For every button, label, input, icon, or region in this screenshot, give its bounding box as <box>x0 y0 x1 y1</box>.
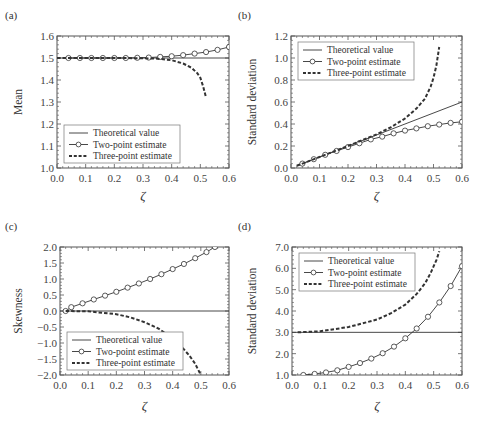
panel-label: (b) <box>238 9 251 22</box>
chart-panel-d: 0.00.10.20.30.40.50.61.02.03.04.05.06.07… <box>238 220 469 413</box>
y-tick-label: −0.5 <box>37 321 57 333</box>
data-point-marker <box>448 120 453 125</box>
y-tick-label: 1.6 <box>40 30 54 42</box>
y-tick-label: 1.5 <box>40 52 54 64</box>
x-tick-label: 0.6 <box>222 379 236 391</box>
legend: Theoretical valueTwo-point estimateThree… <box>67 332 183 370</box>
data-point-marker <box>91 297 96 302</box>
data-point-marker <box>136 281 141 286</box>
y-tick-label: 0.0 <box>43 305 57 317</box>
data-point-marker <box>414 326 419 331</box>
x-tick-label: 0.6 <box>222 172 236 184</box>
x-tick-label: 0.4 <box>166 379 180 391</box>
x-tick-label: 0.5 <box>193 172 207 184</box>
data-point-marker <box>380 351 385 356</box>
data-point-marker <box>448 283 453 288</box>
legend-entry: Theoretical value <box>328 256 394 266</box>
legend-entry: Three-point estimate <box>93 151 172 161</box>
x-axis-label: ζ <box>142 398 148 413</box>
data-point-marker <box>192 51 197 56</box>
series-three-point-estimate <box>57 58 206 98</box>
x-tick-label: 0.5 <box>194 379 208 391</box>
data-point-marker <box>204 250 209 255</box>
chart-panel-a: 0.00.10.20.30.40.50.61.01.11.21.31.41.51… <box>5 9 236 203</box>
data-point-marker <box>414 126 419 131</box>
y-tick-label: 3.0 <box>275 326 289 338</box>
chart-panel-c: 0.00.10.20.30.40.50.6−2.0−1.5−1.0−0.50.0… <box>5 220 236 413</box>
data-point-marker <box>437 300 442 305</box>
data-point-marker <box>114 289 119 294</box>
data-point-marker <box>193 256 198 261</box>
y-tick-label: 1.0 <box>43 273 57 285</box>
data-point-marker <box>80 301 85 306</box>
series-two-point-estimate <box>66 247 215 311</box>
x-tick-label: 0.1 <box>81 379 95 391</box>
y-tick-label: 1.1 <box>40 140 54 152</box>
data-point-marker <box>391 344 396 349</box>
legend-entry: Two-point estimate <box>93 140 166 150</box>
x-tick-label: 0.1 <box>313 379 327 391</box>
y-axis-label: Standard deviation <box>246 58 258 145</box>
data-point-marker <box>69 305 74 310</box>
data-point-marker <box>181 261 186 266</box>
data-point-marker <box>391 131 396 136</box>
y-tick-label: 1.4 <box>40 74 54 86</box>
legend-entry: Two-point estimate <box>96 347 169 357</box>
chart-panel-b: 0.00.10.20.30.40.50.60.00.20.40.60.81.01… <box>238 9 469 203</box>
y-tick-label: 1.3 <box>40 96 54 108</box>
y-tick-label: 4.0 <box>275 305 289 317</box>
y-tick-label: 1.0 <box>274 52 288 64</box>
data-point-marker <box>369 356 374 361</box>
y-tick-label: 1.2 <box>40 118 54 130</box>
y-tick-label: 6.0 <box>275 262 289 274</box>
legend-entry: Theoretical value <box>96 335 162 345</box>
x-tick-label: 0.2 <box>107 172 121 184</box>
legend-entry: Three-point estimate <box>96 358 175 368</box>
data-point-marker <box>125 285 130 290</box>
y-tick-label: 0.2 <box>274 140 288 152</box>
x-tick-label: 0.2 <box>109 379 123 391</box>
x-tick-label: 0.1 <box>313 172 327 184</box>
data-point-marker <box>380 134 385 139</box>
legend-entry: Theoretical value <box>93 128 159 138</box>
data-point-marker <box>203 49 208 54</box>
legend-entry: Three-point estimate <box>328 279 407 289</box>
x-tick-label: 0.4 <box>165 172 179 184</box>
data-point-marker <box>301 372 306 377</box>
x-tick-label: 0.6 <box>455 379 469 391</box>
x-tick-label: 0.5 <box>427 379 441 391</box>
y-tick-label: 5.0 <box>275 284 289 296</box>
y-tick-label: −1.0 <box>37 337 57 349</box>
panel-label: (d) <box>238 220 251 233</box>
data-point-marker <box>346 364 351 369</box>
x-tick-label: 0.4 <box>398 172 412 184</box>
data-point-marker <box>459 119 464 124</box>
panel-label: (c) <box>5 220 18 233</box>
x-tick-label: 0.4 <box>398 379 412 391</box>
data-point-marker <box>323 370 328 375</box>
y-tick-label: 0.0 <box>274 162 288 174</box>
y-tick-label: 0.6 <box>274 96 288 108</box>
y-tick-label: −1.5 <box>37 353 57 365</box>
data-point-marker <box>226 44 231 49</box>
x-tick-label: 0.5 <box>427 172 441 184</box>
legend-entry: Theoretical value <box>327 45 393 55</box>
y-tick-label: 1.5 <box>43 257 57 269</box>
y-axis-label: Mean <box>12 89 24 115</box>
data-point-marker <box>402 128 407 133</box>
y-tick-label: 0.5 <box>43 289 57 301</box>
y-tick-label: 1.0 <box>275 369 289 381</box>
data-point-marker <box>425 314 430 319</box>
data-point-marker <box>437 122 442 127</box>
x-tick-label: 0.3 <box>136 172 150 184</box>
data-point-marker <box>102 293 107 298</box>
x-tick-label: 0.3 <box>138 379 152 391</box>
legend-entry: Three-point estimate <box>327 68 406 78</box>
data-point-marker <box>312 371 317 376</box>
legend: Theoretical valueTwo-point estimateThree… <box>298 42 414 80</box>
data-point-marker <box>212 244 217 249</box>
data-point-marker <box>335 368 340 373</box>
x-axis-label: ζ <box>374 398 380 413</box>
panel-label: (a) <box>5 9 18 22</box>
figure-canvas: 0.00.10.20.30.40.50.61.01.11.21.31.41.51… <box>0 0 484 429</box>
